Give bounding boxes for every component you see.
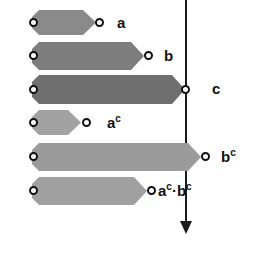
bar-label-b-base: b	[164, 47, 173, 64]
bar-label-c-base: c	[212, 80, 220, 97]
left-endpoint-a-complement	[29, 118, 38, 127]
interval-bar-b	[32, 42, 144, 70]
bar-label-b: b	[164, 48, 173, 63]
bar-body-a	[32, 10, 96, 35]
right-endpoint-a-complement-b-complement	[147, 186, 156, 195]
left-endpoint-b	[29, 51, 38, 60]
interval-bar-a-complement-b-complement	[32, 177, 147, 205]
left-endpoint-a-complement-b-complement	[29, 186, 38, 195]
bar-label-b-complement-base: b	[221, 148, 230, 165]
right-endpoint-c	[181, 85, 190, 94]
bar-label-a-complement: ac	[107, 115, 121, 130]
interval-diagram: a b c ac bc ac·bc	[0, 0, 256, 260]
bar-body-a-complement-b-complement	[32, 177, 147, 205]
bar-label-a-complement-b-complement: ac·bc	[158, 183, 192, 198]
bar-body-c	[32, 75, 185, 104]
bar-label-acbc-sup2: c	[186, 181, 192, 192]
bar-body-b	[32, 42, 144, 70]
right-endpoint-b	[144, 51, 153, 60]
interval-bar-a-complement	[32, 110, 81, 135]
left-endpoint-b-complement	[29, 152, 38, 161]
bar-label-a-base: a	[117, 14, 125, 31]
right-endpoint-b-complement	[201, 152, 210, 161]
interval-bar-c	[32, 75, 185, 104]
bar-label-b-complement-sup: c	[230, 147, 236, 158]
left-endpoint-a	[29, 18, 38, 27]
interval-bar-a	[32, 10, 96, 35]
bar-label-a-complement-sup: c	[115, 113, 121, 124]
interval-bar-b-complement	[32, 143, 201, 171]
bar-body-a-complement	[32, 110, 81, 135]
right-endpoint-a-complement	[82, 118, 91, 127]
bar-label-b-complement: bc	[221, 149, 236, 164]
bar-label-c: c	[212, 81, 220, 96]
threshold-axis-arrowhead	[180, 221, 192, 234]
bar-label-a: a	[117, 15, 125, 30]
left-endpoint-c	[29, 85, 38, 94]
right-endpoint-a	[95, 18, 104, 27]
bar-body-b-complement	[32, 143, 201, 171]
bar-label-acbc-base2: b	[177, 182, 186, 199]
